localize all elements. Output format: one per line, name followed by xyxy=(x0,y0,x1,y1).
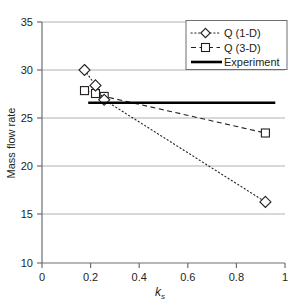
y-tick-label-25: 25 xyxy=(21,112,33,124)
legend: Q (1-D) Q (3-D) Experiment xyxy=(186,21,287,70)
y-tick-label-30: 30 xyxy=(21,64,33,76)
legend-label-q-3d: Q (3-D) xyxy=(224,42,261,54)
mass-flow-rate-chart: 35 30 25 20 15 10 0 0.2 0.4 0.6 0.8 1 Ma… xyxy=(0,0,304,303)
x-axis-title: ks xyxy=(155,285,165,301)
data-point-q3d-0 xyxy=(81,87,89,95)
x-tick-label-0.6: 0.6 xyxy=(180,271,195,283)
y-tick-label-10: 10 xyxy=(21,257,33,269)
y-axis-ticks xyxy=(37,22,42,263)
x-tick-label-0.2: 0.2 xyxy=(83,271,98,283)
x-tick-label-0.8: 0.8 xyxy=(229,271,244,283)
legend-marker-square-icon xyxy=(202,44,210,52)
x-tick-label-0.4: 0.4 xyxy=(132,271,147,283)
y-tick-label-35: 35 xyxy=(21,16,33,28)
legend-label-q-1d: Q (1-D) xyxy=(224,27,261,39)
y-axis-title: Mass flow rate xyxy=(5,108,17,179)
y-tick-label-20: 20 xyxy=(21,160,33,172)
x-tick-label-0: 0 xyxy=(39,271,45,283)
x-tick-label-1: 1 xyxy=(282,271,288,283)
legend-entry-q-3d[interactable]: Q (3-D) xyxy=(191,42,261,54)
x-axis-ticks xyxy=(42,263,285,268)
chart-figure: 35 30 25 20 15 10 0 0.2 0.4 0.6 0.8 1 Ma… xyxy=(0,0,304,303)
x-axis-title-subscript: s xyxy=(161,292,165,301)
data-point-q3d-3 xyxy=(261,129,269,137)
y-tick-label-15: 15 xyxy=(21,208,33,220)
legend-label-experiment: Experiment xyxy=(224,56,280,68)
